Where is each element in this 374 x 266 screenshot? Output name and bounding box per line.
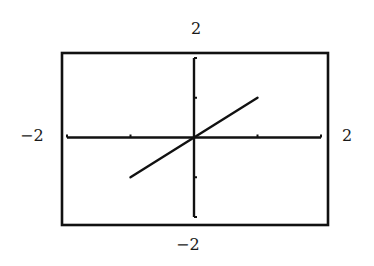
x-min-label: −2 xyxy=(20,128,44,144)
graph-window xyxy=(0,0,374,266)
x-max-label: 2 xyxy=(342,128,352,144)
y-max-label: 2 xyxy=(191,21,201,37)
y-min-label: −2 xyxy=(176,237,200,253)
